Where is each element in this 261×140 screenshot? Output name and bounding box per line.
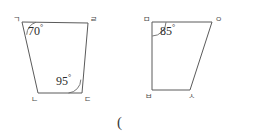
vertex-label-digeut: ㄷ: [84, 96, 91, 104]
angle-label-85: 85°: [160, 24, 175, 37]
vertex-label-ieung: ㅇ: [215, 16, 222, 24]
vertex-label-giyeok: ㄱ: [13, 16, 20, 24]
angle-label-95: 95°: [56, 74, 71, 87]
angle-label-70: 70°: [28, 24, 43, 37]
degree-symbol-85: °: [172, 23, 175, 32]
degree-symbol-70: °: [40, 23, 43, 32]
angle-value-85: 85: [160, 24, 172, 38]
vertex-label-mieum: ㅁ: [143, 16, 150, 24]
vertex-label-bieup: ㅂ: [145, 93, 152, 101]
angle-value-95: 95: [56, 74, 68, 88]
open-paren-mark: (: [117, 115, 122, 130]
angle-value-70: 70: [28, 24, 40, 38]
vertex-label-nieun: ㄴ: [31, 96, 38, 104]
geometry-problem-figure: ㄱ ㄹ ㄷ ㄴ 70° 95° ㅁ ㅇ ㅅ ㅂ 85° (: [0, 0, 261, 140]
vertex-label-rieul: ㄹ: [90, 16, 97, 24]
degree-symbol-95: °: [68, 73, 71, 82]
vertex-label-siot: ㅅ: [188, 93, 195, 101]
